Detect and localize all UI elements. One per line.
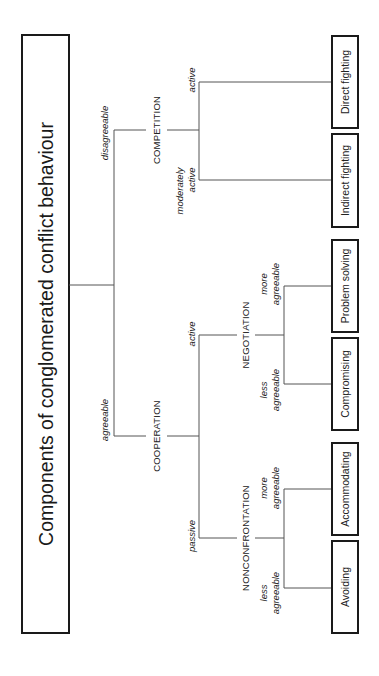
- edge-label-less-avoiding: less: [258, 584, 269, 601]
- diagram-title: Components of conglomerated conflict beh…: [35, 122, 57, 546]
- edge-label-active-negotiation: active: [186, 322, 197, 347]
- edge-label-more-accommodating: more: [258, 477, 269, 499]
- edge-labels: disagreeable agreeable moderately active…: [99, 68, 281, 615]
- edge-label-moderately: moderately: [174, 166, 185, 214]
- node-cooperation: COOPERATION: [151, 400, 162, 472]
- leaf-label: Avoiding: [339, 567, 351, 607]
- leaf-indirect-fighting: Indirect fighting: [332, 134, 358, 227]
- edge-label-agreeable-avoiding: agreeable: [270, 572, 281, 614]
- edge-label-moderately-active: active: [186, 168, 197, 193]
- leaf-accommodating: Accommodating: [332, 443, 358, 535]
- edge-label-less-compromising: less: [258, 381, 269, 398]
- node-competition: COMPETITION: [151, 96, 162, 164]
- edge-label-agreeable: agreeable: [99, 399, 110, 441]
- leaf-label: Compromising: [339, 350, 351, 418]
- edge-label-more-problem-solving: more: [258, 273, 269, 295]
- title-block: Components of conglomerated conflict beh…: [22, 35, 69, 633]
- leaf-boxes: Direct fighting Indirect fighting Proble…: [332, 36, 358, 633]
- leaf-label: Direct fighting: [339, 50, 351, 114]
- edge-label-disagreeable: disagreeable: [99, 106, 110, 160]
- edge-label-active-direct: active: [186, 68, 197, 93]
- leaf-avoiding: Avoiding: [332, 541, 358, 633]
- leaf-direct-fighting: Direct fighting: [332, 36, 358, 128]
- edge-label-agreeable-compromising: agreeable: [270, 369, 281, 411]
- node-negotiation: NEGOTIATION: [240, 302, 251, 369]
- leaf-label: Problem solving: [339, 248, 351, 323]
- conflict-behaviour-diagram: Components of conglomerated conflict beh…: [0, 0, 379, 676]
- edge-label-agreeable-accommodating: agreeable: [270, 467, 281, 509]
- node-labels: COMPETITION COOPERATION NEGOTIATION NONC…: [151, 96, 251, 591]
- node-nonconfrontation: NONCONFRONTATION: [240, 485, 251, 591]
- leaf-compromising: Compromising: [332, 338, 358, 430]
- edge-label-passive: passive: [186, 520, 197, 553]
- leaf-label: Accommodating: [339, 451, 351, 526]
- leaf-problem-solving: Problem solving: [332, 240, 358, 332]
- leaf-label: Indirect fighting: [339, 145, 351, 216]
- edge-label-agreeable-problem-solving: agreeable: [270, 263, 281, 305]
